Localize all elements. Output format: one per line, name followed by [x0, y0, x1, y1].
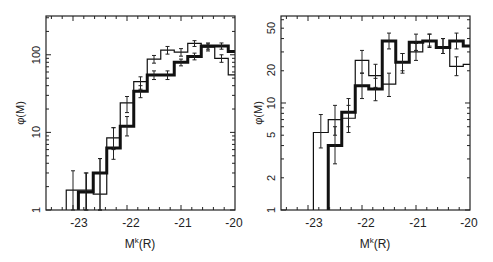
y-tick-label: 20 — [265, 64, 277, 76]
x-axis-label: Mk(R) — [125, 236, 156, 251]
x-tick-label: -20 — [460, 216, 478, 230]
histogram-thin — [66, 43, 235, 210]
y-tick-label: 1 — [265, 207, 277, 213]
histogram-series-group — [313, 33, 470, 210]
y-tick-label: 1 — [30, 207, 42, 213]
y-tick-label: 10 — [265, 97, 277, 109]
y-tick-label: 100 — [30, 46, 42, 64]
y-tick-label: 5 — [265, 132, 277, 138]
y-axis-label: φ(M) — [252, 101, 264, 125]
x-tick-label: -22 — [122, 216, 140, 230]
right-panel: -23 -22 -21 -20 1 2 5 10 20 50 φ(M) Mk(R… — [252, 16, 478, 251]
y-tick-label: 2 — [265, 175, 277, 181]
x-tick-label: -20 — [225, 216, 243, 230]
plot-frame — [281, 16, 470, 210]
histogram-thin — [313, 41, 470, 210]
left-panel: -23 -22 -21 -20 1 10 100 φ(M) Mk(R) — [14, 16, 243, 251]
axis-ticks — [281, 16, 470, 210]
x-tick-label: -23 — [70, 216, 88, 230]
x-tick-label: -21 — [174, 216, 192, 230]
x-tick-label: -21 — [409, 216, 427, 230]
histogram-thick — [328, 41, 470, 210]
histogram-series-group — [66, 41, 235, 210]
y-tick-label: 50 — [265, 22, 277, 34]
x-tick-label: -23 — [305, 216, 323, 230]
x-tick-label: -22 — [357, 216, 375, 230]
y-tick-label: 10 — [30, 126, 42, 138]
x-axis-label: Mk(R) — [360, 236, 391, 251]
y-axis-label: φ(M) — [14, 101, 26, 125]
luminosity-function-figure: -23 -22 -21 -20 1 10 100 φ(M) Mk(R) -23 … — [0, 0, 493, 262]
histogram-thick — [78, 46, 235, 210]
